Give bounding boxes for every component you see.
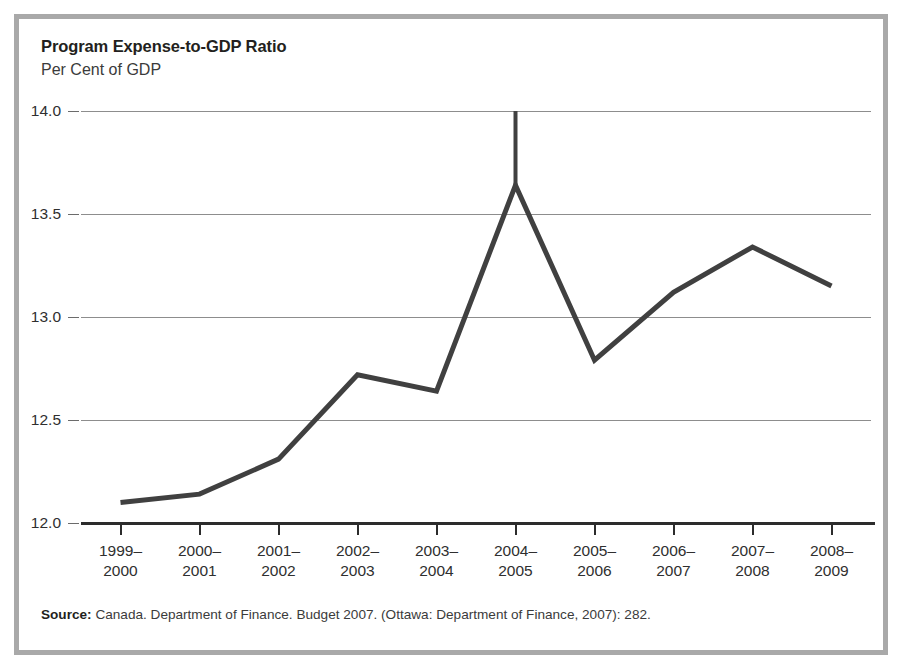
source-label: Source: [41, 607, 92, 622]
series-line [121, 185, 832, 502]
figure-panel: Program Expense-to-GDP Ratio Per Cent of… [14, 14, 888, 655]
x-axis-tick-mark [120, 525, 122, 535]
x-axis-tick-mark [436, 525, 438, 535]
x-axis-tick-mark [594, 525, 596, 535]
x-axis-tick-mark [673, 525, 675, 535]
x-axis-tick-mark [199, 525, 201, 535]
source-text: Canada. Department of Finance. Budget 20… [92, 607, 651, 622]
x-axis-tick-mark [278, 525, 280, 535]
x-axis-tick-mark [752, 525, 754, 535]
x-axis-tick-mark [831, 525, 833, 535]
x-axis-tick-label: 2008–2009 [784, 541, 880, 581]
x-axis-tick-mark [357, 525, 359, 535]
x-axis-tick-mark [515, 525, 517, 535]
figure-inner: Program Expense-to-GDP Ratio Per Cent of… [19, 19, 883, 650]
source-note: Source: Canada. Department of Finance. B… [41, 606, 863, 624]
